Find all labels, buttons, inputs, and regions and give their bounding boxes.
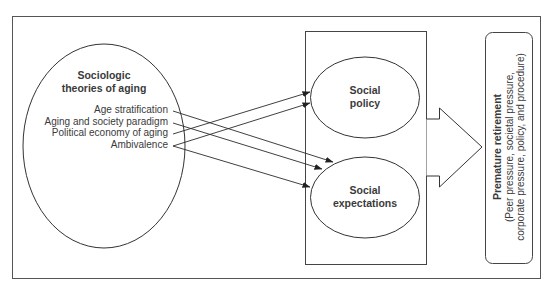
social-policy-line2: policy bbox=[315, 97, 415, 110]
outcome-label: Premature retirement (Peer pressure, soc… bbox=[492, 37, 527, 257]
theory-age-stratification: Age stratification bbox=[8, 104, 168, 116]
theory-aging-society-paradigm: Aging and society paradigm bbox=[8, 116, 168, 128]
outcome-detail-line1: (Peer pressure, societal pressure, bbox=[503, 37, 515, 257]
block-arrow-shape bbox=[427, 108, 483, 187]
social-expectations-line1: Social bbox=[315, 184, 415, 197]
arrow-ambivalence-to-social-policy bbox=[173, 103, 310, 146]
theory-list: Age stratification Aging and society par… bbox=[8, 104, 168, 150]
source-title: Sociologic theories of aging bbox=[44, 69, 164, 95]
arrow-ambivalence-to-social-expectations bbox=[173, 146, 310, 187]
theory-ambivalence: Ambivalence bbox=[8, 139, 168, 151]
social-expectations-label: Social expectations bbox=[315, 184, 415, 210]
arrow-aging-paradigm-to-social-expectations bbox=[173, 123, 322, 169]
theory-political-economy: Political economy of aging bbox=[8, 127, 168, 139]
source-title-line1: Sociologic bbox=[44, 69, 164, 82]
outcome-detail-line2: corporate pressure, policy, and procedur… bbox=[515, 37, 527, 257]
social-policy-line1: Social bbox=[315, 84, 415, 97]
outcome-title: Premature retirement bbox=[492, 37, 504, 257]
social-policy-label: Social policy bbox=[315, 84, 415, 110]
arrow-political-economy-to-social-policy bbox=[173, 92, 310, 134]
social-expectations-line2: expectations bbox=[315, 197, 415, 210]
source-title-line2: theories of aging bbox=[44, 82, 164, 95]
